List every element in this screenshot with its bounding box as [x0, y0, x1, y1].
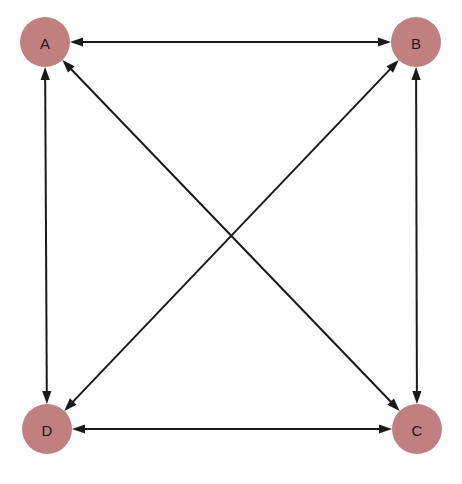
arrowhead-to-c	[412, 391, 421, 404]
arrowhead-to-d	[72, 424, 85, 433]
node-circle-d[interactable]	[22, 404, 72, 454]
edge-shaft	[416, 77, 417, 394]
edge-a-b	[70, 37, 391, 46]
edge-b-c	[411, 67, 421, 404]
arrowhead-to-b	[378, 37, 391, 46]
edge-shaft	[45, 77, 47, 394]
node-c[interactable]: C	[392, 404, 442, 454]
node-a[interactable]: A	[20, 17, 70, 67]
node-circle-b[interactable]	[391, 17, 441, 67]
node-d[interactable]: D	[22, 404, 72, 454]
node-circle-a[interactable]	[20, 17, 70, 67]
arrowhead-to-a	[41, 67, 50, 80]
arrowhead-to-a	[70, 37, 83, 46]
directed-graph-diagram: ABCD	[0, 0, 462, 484]
edges-layer	[41, 37, 422, 433]
arrowhead-to-d	[42, 391, 51, 404]
edge-a-d	[41, 67, 52, 404]
edge-d-c	[72, 424, 392, 433]
arrowhead-to-b	[411, 67, 420, 80]
node-b[interactable]: B	[391, 17, 441, 67]
arrowhead-to-c	[379, 424, 392, 433]
node-circle-c[interactable]	[392, 404, 442, 454]
graph-canvas: ABCD	[0, 0, 462, 484]
